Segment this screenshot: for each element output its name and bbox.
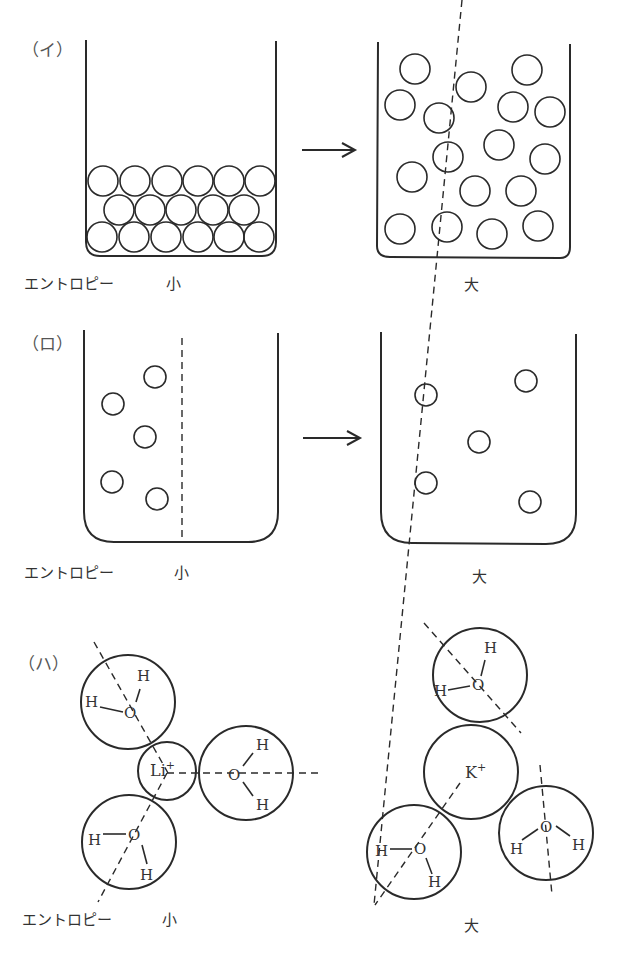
packed-particles — [87, 166, 275, 252]
gas-particles-spread — [415, 370, 541, 513]
k-ion-label: K+ — [465, 761, 486, 782]
oxygen-atom: O — [124, 704, 136, 722]
hydrogen-atom: H — [484, 639, 497, 657]
entropy-small-ha: 小 — [162, 911, 177, 929]
hydrogen-atom: H — [256, 736, 269, 754]
hydrogen-atom: H — [137, 667, 150, 685]
entropy-large-i: 大 — [464, 276, 479, 294]
entropy-label-ha: エントロピー — [22, 911, 112, 929]
oxygen-atom: O — [228, 766, 240, 784]
hydrogen-atom: H — [428, 873, 441, 891]
panel-label-ha: （ハ） — [18, 654, 69, 674]
panel-ha: （ハ） O H H O H H O H — [18, 0, 593, 935]
oxygen-atom: O — [540, 818, 552, 836]
arrow-icon-i — [302, 143, 355, 157]
hydrated-li-ion: O H H O H H O H H Li+ — [81, 642, 318, 902]
water-molecule-top — [433, 628, 527, 722]
container-left-ro — [84, 330, 278, 542]
arrow-icon-ro — [303, 431, 360, 445]
entropy-large-ha: 大 — [464, 917, 479, 935]
entropy-diagram: （イ） — [0, 0, 618, 954]
oxygen-atom: O — [414, 840, 426, 858]
hydrogen-atom: H — [434, 682, 447, 700]
li-ion-label: Li+ — [150, 759, 175, 780]
hydrogen-atom: H — [88, 831, 101, 849]
hydrogen-atom: H — [510, 840, 523, 858]
panel-label-i: （イ） — [22, 40, 73, 60]
panel-label-ro: （ロ） — [22, 334, 73, 354]
gas-particles-confined — [101, 366, 168, 510]
entropy-small-i: 小 — [166, 275, 181, 293]
oxygen-atom: O — [128, 826, 140, 844]
entropy-label-ro: エントロピー — [24, 564, 114, 582]
panel-ro: （ロ） エントロピー 小 大 — [22, 330, 576, 586]
entropy-label-i: エントロピー — [24, 275, 114, 293]
entropy-large-ro: 大 — [472, 568, 487, 586]
container-right-ro — [381, 332, 576, 544]
dispersed-particles — [385, 54, 565, 249]
entropy-small-ro: 小 — [174, 564, 189, 582]
hydrogen-atom: H — [85, 693, 98, 711]
hydrogen-atom: H — [256, 796, 269, 814]
oxygen-atom: O — [472, 676, 484, 694]
hydrogen-atom: H — [572, 836, 585, 854]
panel-i: （イ） — [22, 40, 570, 294]
hydrogen-atom: H — [375, 842, 388, 860]
hydrogen-atom: H — [140, 866, 153, 884]
